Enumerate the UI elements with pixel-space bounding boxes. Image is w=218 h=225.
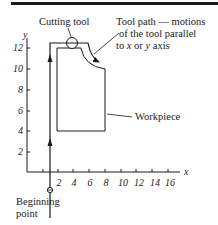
y-tick-label: 12 xyxy=(13,42,23,53)
beginning-point-label-line1: Beginning xyxy=(16,196,60,207)
cutting-tool-leader xyxy=(68,28,71,37)
workpiece-leader xyxy=(107,114,132,117)
y-tick-label: 6 xyxy=(18,105,23,116)
y-axis-name: y xyxy=(22,29,28,40)
y-tick-label: 4 xyxy=(18,125,23,136)
x-axis-name: x xyxy=(183,166,189,177)
x-tick-label: 12 xyxy=(134,177,144,188)
x-tick-label: 4 xyxy=(72,177,77,188)
x-tick-label: 8 xyxy=(104,177,109,188)
path-arrow-up-icon xyxy=(48,138,53,146)
tool-path-label-line3: to x or y axis xyxy=(116,40,170,51)
beginning-point-label-line2: point xyxy=(16,208,38,219)
y-tick-label: 10 xyxy=(13,63,23,74)
workpiece-label: Workpiece xyxy=(135,111,181,122)
tool-path-label-line2: of the tool parallel xyxy=(119,28,196,39)
x-tick-label: 10 xyxy=(118,177,128,188)
x-tick-label: 14 xyxy=(150,177,160,188)
y-tick-label: 8 xyxy=(18,84,23,95)
path-arrow-up-icon xyxy=(48,54,53,62)
x-tick-label: 16 xyxy=(165,177,175,188)
tool-path-label-line1: Tool path — motions xyxy=(116,16,205,27)
workpiece-outline xyxy=(57,48,105,131)
cutting-tool-label: Cutting tool xyxy=(39,16,90,27)
y-tick-label: 2 xyxy=(18,146,23,157)
tool-path-diagram: y x 12 10 8 6 4 2 2 4 6 8 10 12 14 16 Cu… xyxy=(0,0,218,225)
x-tick-label: 2 xyxy=(57,177,62,188)
x-tick-label: 6 xyxy=(88,177,93,188)
